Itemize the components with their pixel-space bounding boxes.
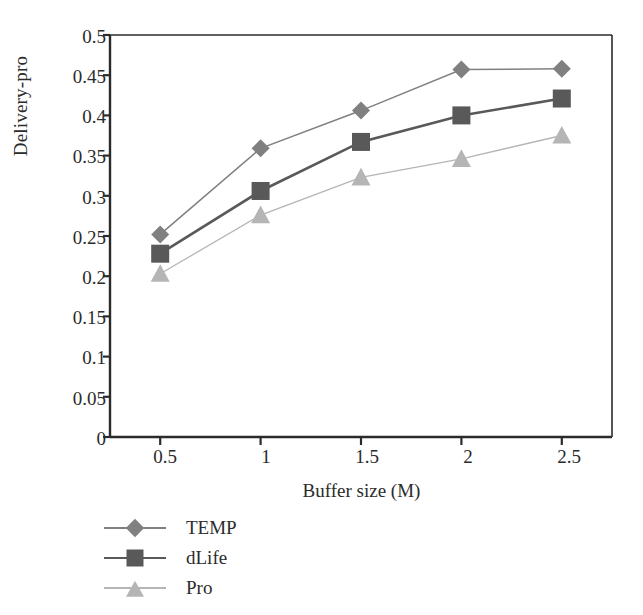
data-point-dlife [252,182,270,200]
data-point-temp [452,61,470,79]
data-point-dlife [151,245,169,263]
legend-key-pro [100,575,170,601]
data-point-dlife [452,106,470,124]
data-point-dlife [553,90,571,108]
legend-key-temp [100,515,170,541]
legend-item-temp: TEMP [100,513,360,543]
legend-label-pro: Pro [170,577,212,599]
x-tick-label: 2 [438,446,498,468]
legend-label-dlife: dLife [170,547,227,569]
data-point-temp [553,60,571,78]
data-point-dlife [352,133,370,151]
x-axis-title: Buffer size (M) [110,480,613,502]
data-point-pro [251,206,270,224]
x-tick-label: 1 [236,446,296,468]
triangle-icon [126,581,144,597]
legend-item-pro: Pro [100,573,360,603]
data-point-pro [151,264,170,282]
data-point-pro [452,149,471,167]
legend-item-dlife: dLife [100,543,360,573]
square-icon [127,550,144,567]
diamond-icon [126,519,144,537]
legend-key-dlife [100,545,170,571]
data-point-temp [352,102,370,120]
chart-figure: Delivery-pro 0.5 0.45 0.4 0.35 0.3 0.25 … [0,0,643,615]
legend-label-temp: TEMP [170,517,237,539]
data-point-pro [552,126,571,144]
x-tick-label: 1.5 [337,446,397,468]
x-tick-label: 2.5 [539,446,599,468]
chart-legend: TEMP dLife Pro [100,513,360,603]
x-tick-label: 0.5 [135,446,195,468]
